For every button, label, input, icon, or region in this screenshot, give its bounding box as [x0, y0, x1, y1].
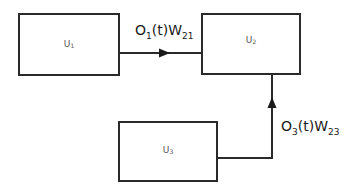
edge-label-u3-u2: O3(t)W23: [281, 118, 339, 134]
node-u1-label: U1: [20, 39, 118, 49]
node-u3-label: U3: [120, 145, 216, 155]
edge-u1-to-u2: [119, 49, 202, 58]
arrowhead-icon: [268, 97, 277, 108]
node-u2-label: U2: [203, 35, 299, 45]
diagram-canvas: U1 U2 U3 O1(t)W21 O3(t)W23: [0, 0, 351, 193]
node-u2: U2: [201, 13, 301, 75]
edge-label-u1-u2: O1(t)W21: [135, 22, 193, 38]
node-u1: U1: [18, 13, 120, 76]
arrowhead-icon: [159, 49, 170, 58]
node-u3: U3: [118, 121, 218, 182]
edge-u3-to-u2: [217, 74, 277, 158]
